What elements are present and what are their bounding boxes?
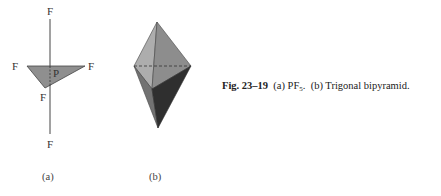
atom-f-left: F — [12, 60, 18, 72]
panel-b-label: (b) — [149, 171, 162, 183]
atom-f-top: F — [47, 5, 53, 17]
atom-f-right: F — [88, 60, 94, 72]
pf5-diagram: F F F P F F (a) — [12, 5, 94, 183]
trigonal-bipyramid: (b) — [134, 22, 191, 183]
caption-part-b: (b) Trigonal bipyramid. — [311, 80, 410, 91]
panel-a-label: (a) — [42, 171, 54, 183]
atom-f-bottom: F — [47, 138, 53, 150]
figure-canvas: F F F P F F (a) (b) — [0, 0, 441, 196]
atom-p-center: P — [53, 67, 59, 79]
atom-f-front: F — [40, 91, 46, 103]
figure-number: Fig. 23–19 — [222, 80, 268, 91]
caption-part-a-end: . — [303, 80, 306, 91]
caption-part-a: (a) PF — [273, 80, 299, 91]
figure-caption: Fig. 23–19 (a) PF5. (b) Trigonal bipyram… — [222, 80, 410, 93]
